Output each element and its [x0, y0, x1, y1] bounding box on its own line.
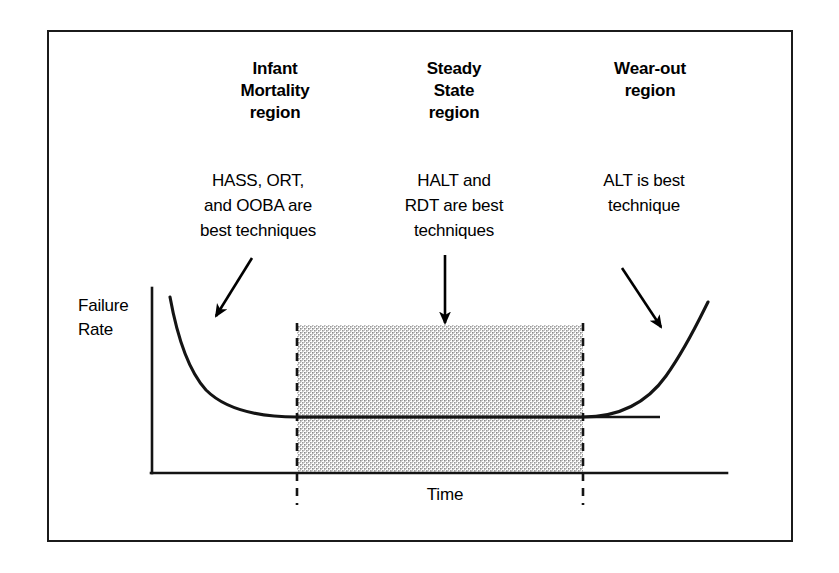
y-axis-label: Failure Rate — [78, 294, 150, 342]
annotation-text-wear-out: ALT is best technique — [556, 168, 732, 218]
bathtub-curve-figure: Infant Mortality region Steady State reg… — [0, 0, 839, 573]
x-axis-label: Time — [390, 485, 500, 505]
region-heading-wear-out: Wear-out region — [560, 58, 740, 102]
region-heading-steady-state: Steady State region — [386, 58, 522, 124]
annotation-text-infant-mortality: HASS, ORT, and OOBA are best techniques — [146, 168, 370, 243]
region-heading-infant-mortality: Infant Mortality region — [182, 58, 368, 124]
annotation-text-steady-state: HALT and RDT are best techniques — [374, 168, 534, 243]
